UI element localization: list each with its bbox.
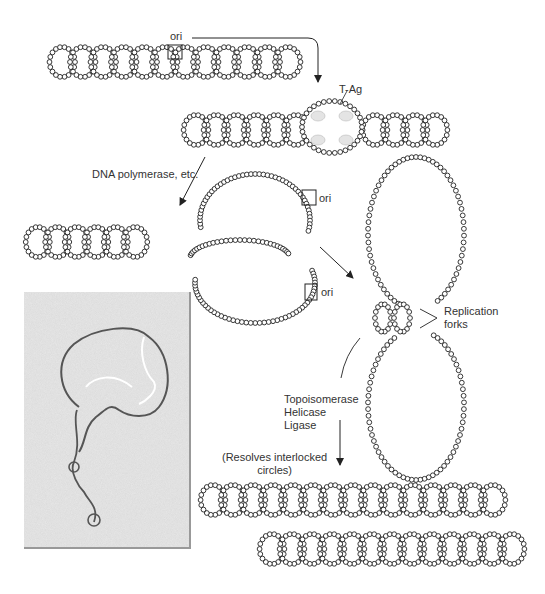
arrow-polymerase bbox=[180, 157, 205, 205]
supercoiled-dna-top bbox=[47, 45, 303, 79]
label-forks: Replication forks bbox=[444, 305, 498, 331]
daughter-dna-2 bbox=[257, 532, 527, 566]
label-polymerase: DNA polymerase, etc. bbox=[92, 168, 198, 181]
fork-pointer bbox=[420, 309, 437, 328]
theta-loops bbox=[188, 172, 317, 326]
curve-connector bbox=[341, 338, 360, 378]
label-ori-top: ori bbox=[170, 30, 182, 43]
arrow-to-late bbox=[320, 247, 353, 278]
theta-intermediate-tail bbox=[23, 225, 149, 259]
label-tag: T-Ag bbox=[339, 83, 362, 96]
electron-micrograph bbox=[24, 292, 191, 549]
label-resolves: (Resolves interlocked circles) bbox=[222, 451, 327, 477]
label-ori-mid2: ori bbox=[321, 286, 333, 299]
daughter-dna-1 bbox=[198, 483, 508, 517]
label-enzymes: Topoisomerase Helicase Ligase bbox=[284, 393, 359, 432]
label-ori-mid1: ori bbox=[319, 192, 331, 205]
